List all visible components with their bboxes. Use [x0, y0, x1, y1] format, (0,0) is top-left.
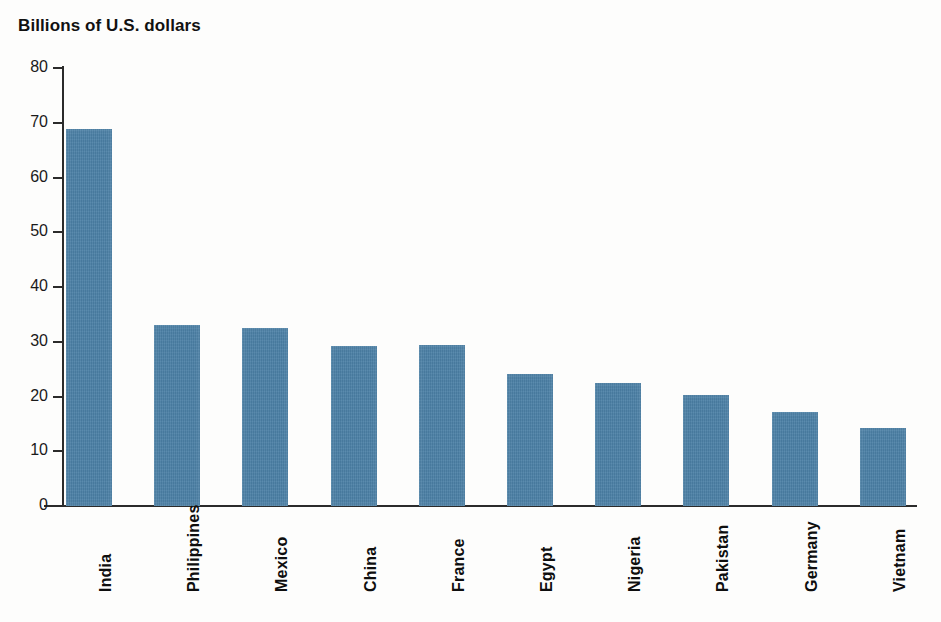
bar [507, 374, 553, 506]
y-tick-label: 60 [0, 169, 48, 185]
category-label: Vietnam [891, 529, 909, 592]
chart-figure: Billions of U.S. dollars 010203040506070… [0, 0, 941, 622]
y-tick-label: 30 [0, 333, 48, 349]
category-label: Pakistan [714, 525, 732, 592]
y-tick-label: 40 [0, 278, 48, 294]
bar [595, 383, 641, 506]
y-tick-mark [53, 341, 63, 343]
y-tick-mark [53, 505, 63, 507]
plot-area: 01020304050607080 IndiaPhilippinesMexico… [0, 0, 941, 622]
y-tick-label: 0 [0, 497, 48, 513]
y-tick-label: 20 [0, 388, 48, 404]
category-label: France [450, 538, 468, 592]
y-tick-label: 50 [0, 223, 48, 239]
y-tick-label: 70 [0, 114, 48, 130]
category-label: Philippines [185, 504, 203, 592]
y-tick-mark [53, 122, 63, 124]
category-label: Mexico [273, 537, 291, 592]
bar [683, 395, 729, 506]
bar [331, 346, 377, 506]
category-label: Egypt [538, 547, 556, 592]
y-tick-mark [53, 177, 63, 179]
y-tick-label: 10 [0, 442, 48, 458]
category-label: India [97, 554, 115, 592]
bar [242, 328, 288, 506]
bar [66, 129, 112, 506]
y-tick-mark [53, 396, 63, 398]
y-tick-mark [53, 286, 63, 288]
y-tick-mark [53, 231, 63, 233]
y-tick-label: 80 [0, 59, 48, 75]
category-label: Germany [803, 521, 821, 592]
y-tick-mark [53, 450, 63, 452]
category-label: China [362, 547, 380, 592]
bar [772, 412, 818, 506]
bar [419, 345, 465, 506]
category-label: Nigeria [626, 536, 644, 592]
bar [154, 325, 200, 506]
bar [860, 428, 906, 506]
y-tick-mark [53, 67, 63, 69]
